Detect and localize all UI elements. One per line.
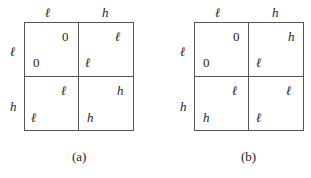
cell-2-2-top: h <box>117 84 124 97</box>
grid-divider-horizontal <box>24 76 134 77</box>
cell-1-1-bottom: 0 <box>203 56 210 69</box>
row-header-1: ℓ <box>180 45 185 58</box>
cell-2-1-top: ℓ <box>61 84 66 97</box>
col-header-1: ℓ <box>45 6 50 19</box>
cell-2-2-bottom: h <box>87 111 94 124</box>
cell-1-1-top: 0 <box>62 30 69 43</box>
cell-2-1-bottom: h <box>203 111 210 124</box>
cell-1-2-top: ℓ <box>115 30 120 43</box>
grid-divider-horizontal <box>194 76 304 77</box>
panel-b: ℓ h ℓ h 0 0 h ℓ ℓ h ℓ ℓ (b) <box>155 0 310 178</box>
cell-2-2-bottom: ℓ <box>256 111 261 124</box>
panel-caption: (a) <box>72 150 86 163</box>
cell-1-1-top: 0 <box>233 30 240 43</box>
cell-1-1-bottom: 0 <box>33 56 40 69</box>
cell-2-1-bottom: ℓ <box>31 111 36 124</box>
row-header-1: ℓ <box>10 45 15 58</box>
cell-1-2-top: h <box>288 30 295 43</box>
row-header-2: h <box>180 100 187 113</box>
col-header-1: ℓ <box>215 6 220 19</box>
cell-2-1-top: ℓ <box>232 84 237 97</box>
col-header-2: h <box>102 6 109 19</box>
panel-caption: (b) <box>241 150 256 163</box>
cell-1-2-bottom: ℓ <box>256 56 261 69</box>
col-header-2: h <box>272 6 279 19</box>
cell-1-2-bottom: ℓ <box>85 56 90 69</box>
row-header-2: h <box>10 100 17 113</box>
cell-2-2-top: ℓ <box>286 84 291 97</box>
panel-a: ℓ h ℓ h 0 0 ℓ ℓ ℓ ℓ h h (a) <box>0 0 155 178</box>
